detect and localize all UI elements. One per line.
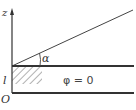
region-label: φ = 0	[63, 74, 93, 87]
diagram-canvas: z l O α φ = 0	[0, 0, 136, 110]
origin-label: O	[1, 93, 10, 106]
height-label: l	[3, 74, 7, 87]
angle-arc	[40, 53, 41, 66]
z-axis-arrow-icon	[10, 8, 14, 15]
oblique-line	[12, 10, 133, 66]
z-axis-label: z	[1, 7, 8, 18]
angle-label: α	[42, 52, 50, 65]
hatched-region	[12, 66, 42, 84]
